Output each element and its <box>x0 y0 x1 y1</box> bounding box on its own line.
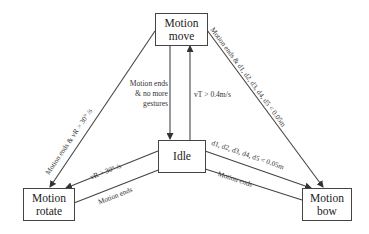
label-move-to-idle-line2: & no more <box>118 89 168 99</box>
node-motion-bow: Motion bow <box>302 188 352 221</box>
node-motion-bow-line2: bow <box>317 205 337 218</box>
node-motion-rotate: Motion rotate <box>23 188 75 221</box>
node-motion-rotate-line2: rotate <box>36 205 62 218</box>
node-idle-label: Idle <box>173 150 191 163</box>
label-move-to-idle: Motion ends & no more gestures <box>118 79 168 109</box>
node-motion-move-line1: Motion <box>165 17 199 30</box>
label-move-to-idle-line3: gestures <box>118 99 168 109</box>
edge-move-to-rotate <box>50 31 155 187</box>
label-move-to-idle-line1: Motion ends <box>118 79 168 89</box>
label-idle-to-move: vT > 0.4m/s <box>194 91 231 99</box>
node-motion-rotate-line1: Motion <box>32 192 66 205</box>
node-motion-move-line2: move <box>169 30 195 43</box>
node-idle: Idle <box>158 140 206 173</box>
node-motion-bow-line1: Motion <box>310 192 344 205</box>
node-motion-move: Motion move <box>155 13 208 46</box>
